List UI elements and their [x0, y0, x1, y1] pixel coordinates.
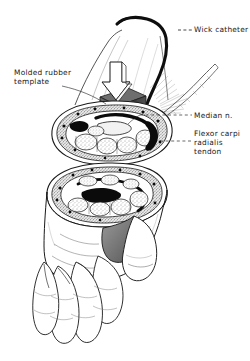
label-molded-rubber-template: Molded rubbertemplate: [14, 68, 71, 86]
label-median-nerve: Median n.: [194, 111, 233, 120]
label-wick-catheter: Wick catheter: [194, 25, 248, 34]
cross-section-upper: [52, 101, 172, 165]
label-line-3: tendon: [194, 147, 222, 156]
anatomical-illustration: [0, 0, 250, 361]
label-line-2: template: [14, 77, 49, 86]
label-line-1: Flexor carpi: [194, 129, 240, 138]
label-line-1: Molded rubber: [14, 68, 71, 77]
label-line-2: radialis: [194, 138, 223, 147]
label-flexor-carpi-radialis-tendon: Flexor carpiradialistendon: [194, 129, 240, 157]
